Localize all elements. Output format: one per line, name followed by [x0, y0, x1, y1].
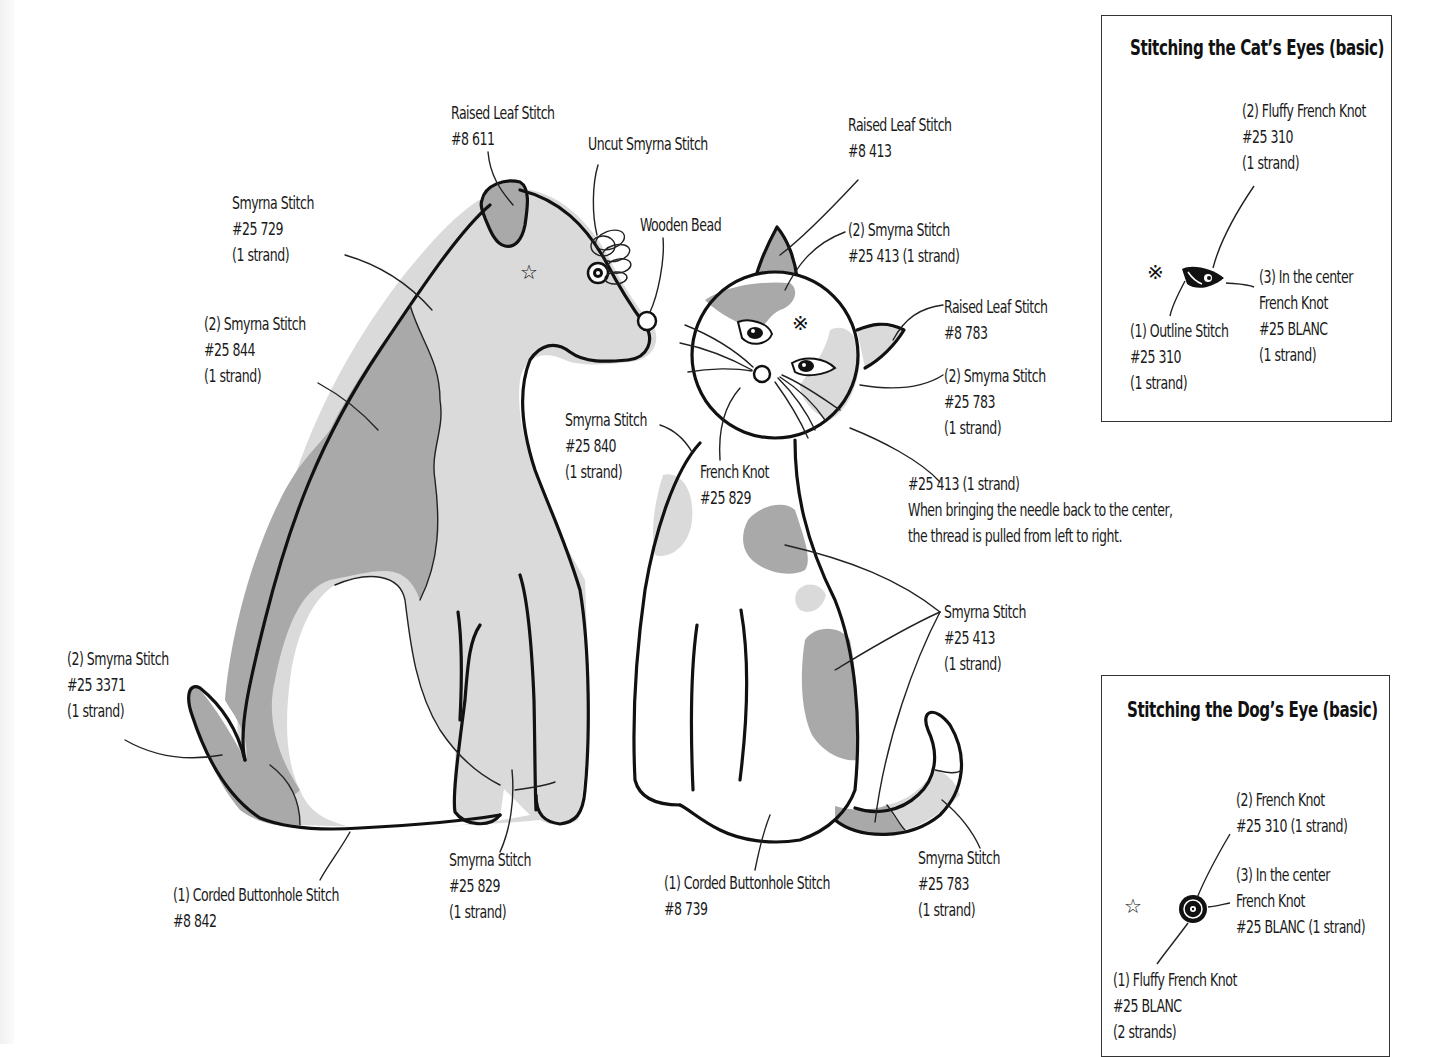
label-line: #25 413 — [944, 625, 1026, 651]
label-line: (2) Smyrna Stitch — [848, 217, 959, 243]
inset-cat-step3-label: (3) In the center French Knot #25 BLANC … — [1259, 264, 1353, 368]
label-line: When bringing the needle back to the cen… — [908, 497, 1173, 523]
label-line: the thread is pulled from left to right. — [908, 523, 1173, 549]
label-line: Wooden Bead — [640, 212, 721, 238]
label-line: Raised Leaf Stitch — [944, 294, 1048, 320]
label-line: #8 739 — [664, 896, 830, 922]
label-cat-right-ear: Raised Leaf Stitch #8 783 — [944, 294, 1048, 346]
label-line: (1 strand) — [918, 897, 1000, 923]
label-line: #25 BLANC (1 strand) — [1236, 914, 1365, 940]
label-line: #25 413 (1 strand) — [848, 243, 959, 269]
label-line: Smyrna Stitch — [565, 407, 647, 433]
label-line: Smyrna Stitch — [232, 190, 314, 216]
label-line: Raised Leaf Stitch — [451, 100, 555, 126]
label-line: #8 783 — [944, 320, 1048, 346]
label-dog-ear: Raised Leaf Stitch #8 611 — [451, 100, 555, 152]
label-line: (1 strand) — [944, 415, 1046, 441]
inset-cat-step2-label: (2) Fluffy French Knot #25 310 (1 strand… — [1242, 98, 1366, 176]
label-dog-body-light: Smyrna Stitch #25 729 (1 strand) — [232, 190, 314, 268]
star-marker-icon: ☆ — [1124, 894, 1142, 918]
label-line: Raised Leaf Stitch — [848, 112, 952, 138]
label-line: (1) Corded Buttonhole Stitch — [173, 882, 339, 908]
reference-mark-icon: ※ — [1147, 260, 1164, 284]
inset-cat-step1-label: (1) Outline Stitch #25 310 (1 strand) — [1130, 318, 1228, 396]
label-cat-cheek: (2) Smyrna Stitch #25 783 (1 strand) — [944, 363, 1046, 441]
label-line: #25 310 (1 strand) — [1236, 813, 1347, 839]
label-line: (2) French Knot — [1236, 787, 1347, 813]
label-line: (2 strands) — [1113, 1019, 1237, 1045]
label-dog-uncut-smyrna: Uncut Smyrna Stitch — [588, 131, 708, 157]
label-line: #25 413 (1 strand) — [908, 471, 1173, 497]
label-dog-wooden-bead: Wooden Bead — [640, 212, 721, 238]
star-marker-icon: ☆ — [520, 260, 538, 284]
label-line: Smyrna Stitch — [918, 845, 1000, 871]
label-line: #25 729 — [232, 216, 314, 242]
label-line: #25 840 — [565, 433, 647, 459]
label-line: #25 783 — [918, 871, 1000, 897]
label-line: #25 310 — [1130, 344, 1228, 370]
label-line: French Knot — [700, 459, 769, 485]
label-line: #25 783 — [944, 389, 1046, 415]
label-line: (3) In the center — [1259, 264, 1353, 290]
label-line: #25 BLANC — [1113, 993, 1237, 1019]
label-line: Uncut Smyrna Stitch — [588, 131, 708, 157]
label-cat-chest-patch: Smyrna Stitch #25 840 (1 strand) — [565, 407, 647, 485]
label-line: #8 611 — [451, 126, 555, 152]
label-line: (1 strand) — [1130, 370, 1228, 396]
label-line: (2) Smyrna Stitch — [67, 646, 169, 672]
label-line: #25 BLANC — [1259, 316, 1353, 342]
inset-dog-eye: Stitching the Dog’s Eye (basic) ☆ (2) Fr… — [1101, 675, 1390, 1057]
label-line: #25 844 — [204, 337, 306, 363]
label-line: #25 310 — [1242, 124, 1366, 150]
wooden-bead — [638, 312, 656, 330]
label-line: (1 strand) — [1242, 150, 1366, 176]
label-dog-tail: (2) Smyrna Stitch #25 3371 (1 strand) — [67, 646, 169, 724]
label-line: (1 strand) — [565, 459, 647, 485]
label-cat-whiskers: #25 413 (1 strand) When bringing the nee… — [908, 471, 1173, 549]
label-line: (2) Fluffy French Knot — [1242, 98, 1366, 124]
label-line: (1 strand) — [232, 242, 314, 268]
label-line: (1) Corded Buttonhole Stitch — [664, 870, 830, 896]
label-line: (2) Smyrna Stitch — [204, 311, 306, 337]
label-line: #8 842 — [173, 908, 339, 934]
label-line: (1) Fluffy French Knot — [1113, 967, 1237, 993]
label-line: (1 strand) — [1259, 342, 1353, 368]
label-dog-legs: Smyrna Stitch #25 829 (1 strand) — [449, 847, 531, 925]
label-line: (3) In the center — [1236, 862, 1365, 888]
label-cat-left-ear: Raised Leaf Stitch #8 413 — [848, 112, 952, 164]
label-line: (1 strand) — [449, 899, 531, 925]
label-line: (1 strand) — [204, 363, 306, 389]
label-line: #25 829 — [700, 485, 769, 511]
dog-figure: ☆ — [188, 181, 657, 829]
label-cat-head-patch: (2) Smyrna Stitch #25 413 (1 strand) — [848, 217, 959, 269]
inset-dog-step3-label: (3) In the center French Knot #25 BLANC … — [1236, 862, 1365, 940]
label-line: (1) Outline Stitch — [1130, 318, 1228, 344]
label-line: (1 strand) — [67, 698, 169, 724]
inset-dog-step2-label: (2) French Knot #25 310 (1 strand) — [1236, 787, 1347, 839]
label-cat-nose: French Knot #25 829 — [700, 459, 769, 511]
label-line: #8 413 — [848, 138, 952, 164]
label-line: (2) Smyrna Stitch — [944, 363, 1046, 389]
label-dog-outline: (1) Corded Buttonhole Stitch #8 842 — [173, 882, 339, 934]
inset-dog-step1-label: (1) Fluffy French Knot #25 BLANC (2 stra… — [1113, 967, 1237, 1045]
label-cat-body-patches: Smyrna Stitch #25 413 (1 strand) — [944, 599, 1026, 677]
label-cat-outline: (1) Corded Buttonhole Stitch #8 739 — [664, 870, 830, 922]
label-cat-tail-tip: Smyrna Stitch #25 783 (1 strand) — [918, 845, 1000, 923]
label-line: #25 3371 — [67, 672, 169, 698]
label-line: Smyrna Stitch — [944, 599, 1026, 625]
label-line: #25 829 — [449, 873, 531, 899]
label-dog-body-dark: (2) Smyrna Stitch #25 844 (1 strand) — [204, 311, 306, 389]
label-line: Smyrna Stitch — [449, 847, 531, 873]
label-line: French Knot — [1259, 290, 1353, 316]
label-line: (1 strand) — [944, 651, 1026, 677]
label-line: French Knot — [1236, 888, 1365, 914]
inset-cat-eyes: Stitching the Cat’s Eyes (basic) ※ (2) F… — [1101, 15, 1392, 422]
reference-mark-icon: ※ — [792, 311, 809, 335]
